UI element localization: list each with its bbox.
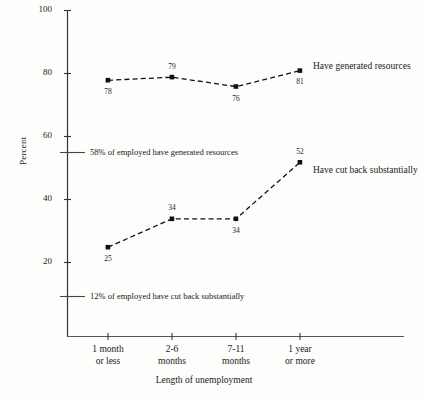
- x-tick-label-2-line1: 7-11: [201, 343, 271, 355]
- x-tick-label-2-line2: months: [201, 355, 271, 367]
- series-point-generated-1: [170, 75, 175, 80]
- y-tick-label-80: 80: [26, 67, 52, 77]
- annotation-cut-back: 12% of employed have cut back substantia…: [90, 291, 244, 301]
- y-tick-label-20: 20: [26, 256, 52, 266]
- point-label-cutback-3: 52: [288, 147, 312, 156]
- series-point-cutback-0: [106, 245, 111, 250]
- x-tick-label-3-line2: or more: [265, 355, 335, 367]
- x-tick-label-1: 2-6 months: [137, 343, 207, 367]
- x-tick-label-3: 1 year or more: [265, 343, 335, 367]
- point-label-generated-1: 79: [160, 62, 184, 71]
- series-point-generated-0: [106, 78, 111, 83]
- point-label-cutback-2: 34: [224, 226, 248, 235]
- x-tick-label-1-line2: months: [137, 355, 207, 367]
- series-line-generated-resources: [108, 71, 300, 87]
- point-label-generated-2: 76: [224, 94, 248, 103]
- y-tick-label-40: 40: [26, 193, 52, 203]
- y-axis-title: Percent: [18, 137, 28, 165]
- point-label-cutback-0: 25: [96, 254, 120, 263]
- point-label-generated-0: 78: [96, 87, 120, 96]
- series-label-cut-back: Have cut back substantially: [313, 165, 418, 175]
- y-tick-label-100: 100: [26, 4, 52, 14]
- x-tick-label-1-line1: 2-6: [137, 343, 207, 355]
- y-tick-label-60: 60: [26, 130, 52, 140]
- x-tick-label-0-line2: or less: [73, 355, 143, 367]
- chart-figure: 100 80 60 40 20 Percent 1 month or less …: [0, 0, 424, 401]
- series-line-cut-back: [108, 162, 300, 247]
- point-label-generated-3: 81: [288, 77, 312, 86]
- x-axis-title: Length of unemployment: [124, 375, 284, 385]
- series-point-generated-2: [234, 84, 239, 89]
- annotation-generated-resources: 58% of employed have generated resources: [90, 147, 238, 157]
- x-tick-label-0: 1 month or less: [73, 343, 143, 367]
- series-point-generated-3: [298, 68, 303, 73]
- x-tick-label-0-line1: 1 month: [73, 343, 143, 355]
- x-tick-label-3-line1: 1 year: [265, 343, 335, 355]
- point-label-cutback-1: 34: [160, 203, 184, 212]
- series-label-generated-resources: Have generated resources: [313, 61, 411, 71]
- series-point-cutback-1: [170, 217, 175, 222]
- series-point-cutback-3: [298, 160, 303, 165]
- series-point-cutback-2: [234, 217, 239, 222]
- x-tick-label-2: 7-11 months: [201, 343, 271, 367]
